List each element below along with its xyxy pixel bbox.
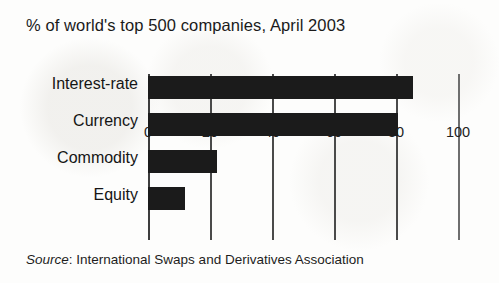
category-label-interest-rate: Interest-rate — [52, 75, 138, 93]
source-label: Source — [26, 252, 69, 267]
bar-interest-rate — [148, 76, 413, 99]
chart-title: % of world's top 500 companies, April 20… — [26, 16, 345, 35]
category-label-commodity: Commodity — [57, 149, 138, 167]
source-note: Source: International Swaps and Derivati… — [26, 252, 364, 267]
bar-currency — [148, 113, 398, 136]
xtick-label-100: 100 — [438, 124, 478, 140]
gridline-100 — [458, 74, 460, 240]
bar-commodity — [148, 150, 217, 173]
source-organization: International Swaps and Derivatives Asso… — [76, 252, 363, 267]
bar-equity — [148, 187, 185, 210]
chart-figure: % of world's top 500 companies, April 20… — [0, 0, 499, 283]
plot-area: 0 20 40 60 80 100 — [148, 74, 460, 240]
category-axis-labels: Interest-rate Currency Commodity Equity — [0, 74, 138, 240]
category-label-equity: Equity — [94, 186, 138, 204]
